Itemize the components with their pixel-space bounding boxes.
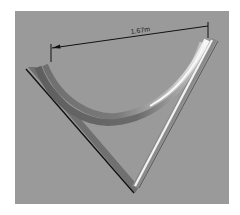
render-figure: 1.67m: [0, 0, 240, 215]
